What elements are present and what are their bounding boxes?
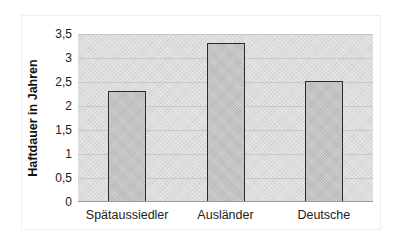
bar-ausländer xyxy=(207,43,245,201)
bar-spätaussiedler xyxy=(108,91,146,201)
y-tick-label: 0,5 xyxy=(55,172,72,184)
y-tick-label: 0 xyxy=(65,196,72,208)
bar-deutsche xyxy=(305,81,343,201)
y-tick-label: 1 xyxy=(65,148,72,160)
y-tick-label: 1,5 xyxy=(55,124,72,136)
y-tick-label: 2,5 xyxy=(55,76,72,88)
y-tick-label: 2 xyxy=(65,100,72,112)
y-tick-label: 3 xyxy=(65,52,72,64)
gridline xyxy=(78,34,373,35)
x-tick-label: Deutsche xyxy=(264,208,384,222)
y-axis-title: Haftdauer in Jahren xyxy=(26,59,40,176)
y-tick-label: 3,5 xyxy=(55,28,72,40)
plot-area xyxy=(78,34,373,202)
